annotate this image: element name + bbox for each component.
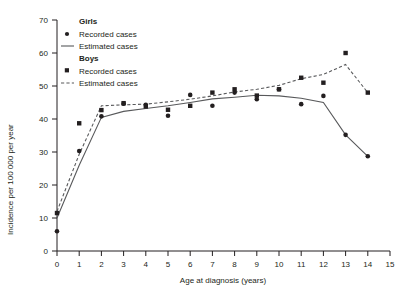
y-tick-label: 60 bbox=[39, 49, 48, 58]
legend-group-girls-title: Girls bbox=[79, 17, 98, 26]
x-axis-ticks bbox=[57, 251, 390, 256]
data-point-marker bbox=[99, 114, 104, 119]
data-point-marker bbox=[255, 93, 259, 97]
y-tick-label: 10 bbox=[39, 214, 48, 223]
data-point-marker bbox=[210, 90, 214, 94]
x-tick-label: 11 bbox=[297, 260, 306, 269]
x-tick-label: 7 bbox=[210, 260, 215, 269]
x-tick-label: 4 bbox=[144, 260, 149, 269]
x-tick-label: 15 bbox=[386, 260, 395, 269]
x-axis-tick-labels: 0123456789101112131415 bbox=[55, 260, 395, 269]
y-tick-label: 30 bbox=[39, 148, 48, 157]
legend-label-girls-estimated: Estimated cases bbox=[79, 42, 138, 51]
legend-group-boys-title: Boys bbox=[79, 54, 99, 63]
data-point-marker bbox=[55, 229, 60, 234]
legend: Girls Recorded cases Estimated cases Boy… bbox=[61, 17, 138, 88]
series-line bbox=[57, 95, 368, 218]
y-tick-label: 0 bbox=[44, 247, 49, 256]
legend-label-girls-recorded: Recorded cases bbox=[79, 30, 137, 39]
data-point-marker bbox=[321, 81, 325, 85]
chart-figure: 010203040506070 Incidence per 100 000 pe… bbox=[0, 0, 398, 294]
legend-label-boys-estimated: Estimated cases bbox=[79, 79, 138, 88]
data-point-marker bbox=[277, 87, 281, 91]
data-point-marker bbox=[366, 154, 371, 159]
legend-marker-girls-recorded bbox=[65, 32, 69, 36]
data-point-marker bbox=[55, 211, 59, 215]
data-point-marker bbox=[77, 121, 81, 125]
data-point-marker bbox=[188, 104, 192, 108]
data-point-marker bbox=[299, 76, 303, 80]
y-axis-group: 010203040506070 Incidence per 100 000 pe… bbox=[6, 16, 57, 256]
x-tick-label: 13 bbox=[341, 260, 350, 269]
x-tick-label: 8 bbox=[232, 260, 237, 269]
data-point-marker bbox=[343, 51, 347, 55]
data-point-marker bbox=[210, 104, 215, 109]
x-tick-label: 14 bbox=[363, 260, 372, 269]
y-tick-label: 40 bbox=[39, 115, 48, 124]
y-tick-label: 20 bbox=[39, 181, 48, 190]
data-point-marker bbox=[321, 94, 326, 99]
x-axis-group: 0123456789101112131415 Age at diagnosis … bbox=[55, 251, 395, 285]
y-axis-tick-labels: 010203040506070 bbox=[39, 16, 48, 256]
data-point-marker bbox=[144, 104, 148, 108]
x-tick-label: 9 bbox=[255, 260, 260, 269]
x-tick-label: 6 bbox=[188, 260, 193, 269]
x-tick-label: 1 bbox=[77, 260, 82, 269]
data-point-marker bbox=[343, 133, 348, 138]
x-tick-label: 3 bbox=[121, 260, 126, 269]
x-tick-label: 5 bbox=[166, 260, 171, 269]
y-axis-title: Incidence per 100 000 per year bbox=[6, 124, 15, 235]
data-point-marker bbox=[99, 108, 103, 112]
y-tick-label: 70 bbox=[39, 16, 48, 25]
chart-canvas: 010203040506070 Incidence per 100 000 pe… bbox=[0, 0, 398, 294]
x-tick-label: 2 bbox=[99, 260, 104, 269]
data-point-marker bbox=[166, 108, 170, 112]
data-point-marker bbox=[366, 90, 370, 94]
data-point-marker bbox=[188, 93, 193, 98]
y-tick-label: 50 bbox=[39, 82, 48, 91]
y-axis-ticks bbox=[52, 20, 57, 251]
x-tick-label: 12 bbox=[319, 260, 328, 269]
legend-label-boys-recorded: Recorded cases bbox=[79, 67, 137, 76]
legend-marker-boys-recorded bbox=[65, 68, 69, 72]
x-axis-title: Age at diagnosis (years) bbox=[180, 276, 267, 285]
data-point-marker bbox=[232, 87, 236, 91]
data-point-marker bbox=[166, 113, 171, 118]
x-tick-label: 0 bbox=[55, 260, 60, 269]
data-point-marker bbox=[299, 102, 304, 107]
data-point-marker bbox=[77, 149, 82, 154]
x-tick-label: 10 bbox=[275, 260, 284, 269]
data-point-marker bbox=[121, 101, 125, 105]
